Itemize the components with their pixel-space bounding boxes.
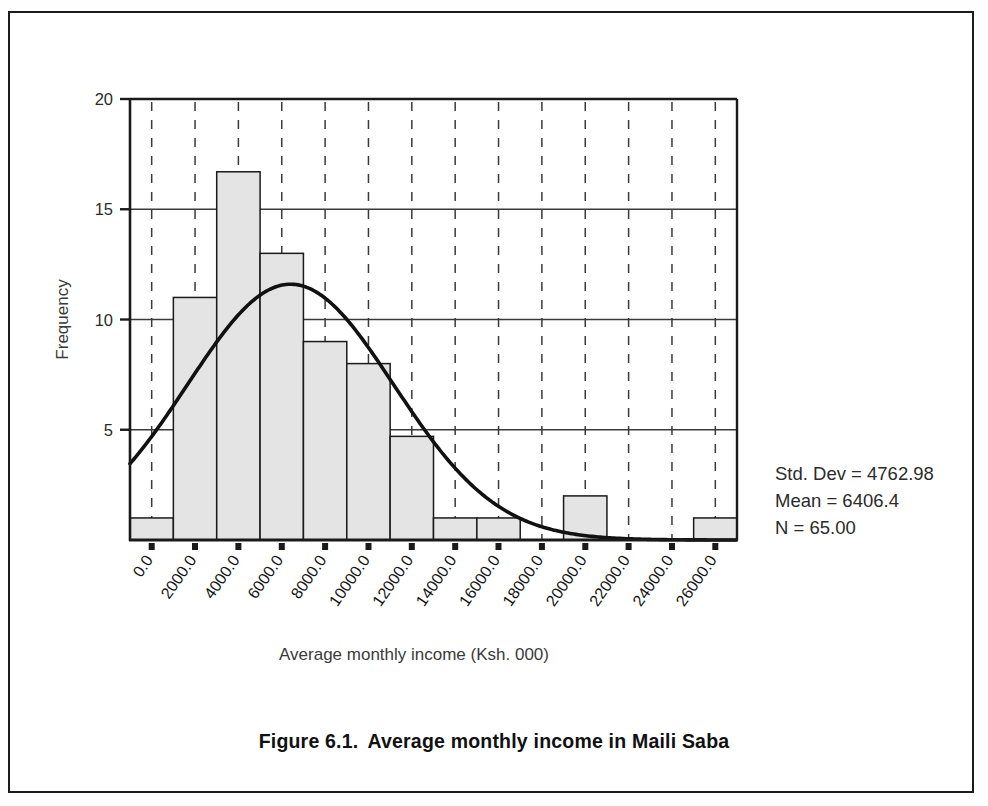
x-tick-mark bbox=[409, 543, 415, 550]
y-tick-label: 10 bbox=[95, 311, 113, 329]
bar-rect bbox=[390, 436, 433, 540]
x-tick-mark bbox=[366, 543, 372, 550]
y-tick-label: 20 bbox=[95, 90, 113, 108]
bar-rect bbox=[173, 297, 216, 540]
bar-rect bbox=[217, 172, 260, 540]
x-tick-mark bbox=[235, 543, 241, 550]
x-tick-label: 26000.0 bbox=[673, 552, 720, 609]
x-tick-mark bbox=[192, 543, 198, 550]
x-tick-mark bbox=[279, 543, 285, 550]
histogram-bar bbox=[477, 518, 520, 540]
histogram-bar bbox=[434, 518, 477, 540]
x-tick-mark bbox=[149, 543, 155, 550]
x-tick-mark bbox=[452, 543, 458, 550]
x-tick-label: 12000.0 bbox=[369, 552, 416, 609]
x-tick-label: 4000.0 bbox=[201, 552, 243, 602]
x-tick-label: 2000.0 bbox=[157, 552, 199, 602]
histogram-bar bbox=[347, 364, 390, 540]
x-tick-label: 24000.0 bbox=[629, 552, 676, 609]
histogram-bar bbox=[694, 518, 737, 540]
bar-rect bbox=[260, 253, 303, 540]
y-tick-label: 5 bbox=[104, 421, 113, 439]
bar-rect bbox=[130, 518, 173, 540]
figure-page: 51015200.02000.04000.06000.08000.010000.… bbox=[0, 0, 988, 806]
histogram-bar bbox=[303, 342, 346, 540]
x-tick-mark bbox=[496, 543, 502, 550]
x-tick-mark bbox=[322, 543, 328, 550]
stat-mean: Mean = 6406.4 bbox=[775, 490, 899, 511]
chart-canvas: 51015200.02000.04000.06000.08000.010000.… bbox=[0, 0, 988, 806]
histogram-bar bbox=[130, 518, 173, 540]
x-tick-label: 10000.0 bbox=[326, 552, 373, 609]
x-tick-label: 6000.0 bbox=[244, 552, 286, 602]
x-axis-title: Average monthly income (Ksh. 000) bbox=[279, 645, 549, 664]
x-tick-mark bbox=[626, 543, 632, 550]
x-tick-label: 14000.0 bbox=[413, 552, 460, 609]
bar-rect bbox=[347, 364, 390, 540]
x-tick-label: 18000.0 bbox=[499, 552, 546, 609]
x-tick-label: 0.0 bbox=[129, 552, 156, 580]
x-tick-label: 20000.0 bbox=[543, 552, 590, 609]
y-tick-label: 15 bbox=[95, 200, 113, 218]
histogram-bar bbox=[260, 253, 303, 540]
histogram-bar bbox=[173, 297, 216, 540]
x-tick-label: 22000.0 bbox=[586, 552, 633, 609]
stat-std-dev: Std. Dev = 4762.98 bbox=[775, 463, 934, 484]
x-tick-mark bbox=[539, 543, 545, 550]
caption-number: Figure 6.1. bbox=[259, 730, 359, 752]
histogram-bar bbox=[217, 172, 260, 540]
figure-caption: Figure 6.1.Average monthly income in Mai… bbox=[0, 730, 988, 753]
bar-rect bbox=[434, 518, 477, 540]
bar-rect bbox=[694, 518, 737, 540]
x-tick-mark bbox=[582, 543, 588, 550]
x-tick-label: 8000.0 bbox=[288, 552, 330, 602]
stat-n: N = 65.00 bbox=[775, 517, 856, 538]
histogram-bar bbox=[390, 436, 433, 540]
x-tick-mark bbox=[712, 543, 718, 550]
x-tick-mark bbox=[669, 543, 675, 550]
x-tick-label: 16000.0 bbox=[456, 552, 503, 609]
caption-text: Average monthly income in Maili Saba bbox=[367, 730, 729, 752]
bar-rect bbox=[477, 518, 520, 540]
bar-rect bbox=[303, 342, 346, 540]
y-axis-title: Frequency bbox=[53, 279, 72, 360]
histogram-figure: 51015200.02000.04000.06000.08000.010000.… bbox=[0, 0, 988, 806]
